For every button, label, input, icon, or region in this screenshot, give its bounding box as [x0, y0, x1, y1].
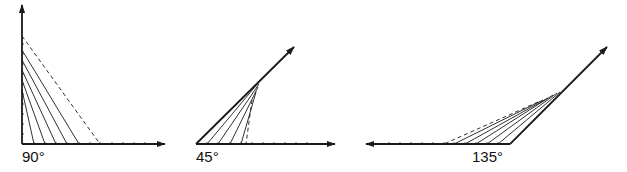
envelope-dashed-line: [22, 36, 100, 144]
label-135-degree: 135°: [472, 148, 503, 165]
angle-envelope-diagram: [0, 0, 627, 172]
envelope-line: [476, 95, 553, 144]
ray-arrow: [510, 47, 607, 144]
envelope-line: [207, 82, 259, 144]
envelope-dashed-line: [444, 102, 538, 144]
figure-90-degree: [22, 5, 165, 144]
envelope-line: [487, 93, 557, 144]
envelope-line: [22, 70, 56, 144]
label-45-degree: 45°: [196, 148, 219, 165]
envelope-line: [22, 90, 34, 144]
envelope-line: [218, 84, 259, 144]
figure-135-degree: [366, 47, 607, 144]
figure-45-degree: [196, 47, 335, 144]
envelope-line: [22, 60, 67, 144]
envelope-line: [454, 100, 543, 144]
label-90-degree: 90°: [22, 148, 45, 165]
